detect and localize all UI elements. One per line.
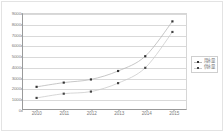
data-point	[90, 78, 92, 80]
data-point	[90, 91, 92, 93]
y-axis-label: 7000	[12, 33, 21, 37]
y-axis-label: 2000	[12, 87, 21, 91]
legend-marker-icon	[194, 59, 202, 64]
data-point	[144, 67, 146, 69]
y-axis-label: 0	[19, 109, 21, 113]
data-point	[117, 82, 119, 84]
data-point	[35, 97, 37, 99]
data-point	[171, 20, 173, 22]
x-axis-label: 2014	[142, 112, 152, 117]
y-axis-label: 8000	[12, 23, 21, 27]
legend-item-2[interactable]: 供水量	[194, 65, 215, 71]
x-axis-label: 2010	[32, 112, 42, 117]
y-axis-label: 5000	[12, 55, 21, 59]
data-point	[171, 31, 173, 33]
y-axis-label: 3000	[12, 76, 21, 80]
x-axis-label: 2013	[114, 112, 124, 117]
legend: 用水量供水量	[191, 56, 218, 73]
series-layer	[23, 14, 186, 109]
y-axis-label: 9000	[12, 12, 21, 16]
x-axis-label: 2015	[169, 112, 179, 117]
line-chart: 0100020003000400050006000700080009000 20…	[0, 0, 224, 132]
legend-marker-icon	[194, 65, 202, 70]
y-tick-mark	[21, 111, 23, 112]
y-axis-label: 6000	[12, 44, 21, 48]
legend-label: 供水量	[204, 65, 216, 69]
data-point	[63, 82, 65, 84]
data-point	[35, 86, 37, 88]
x-axis-label: 2011	[60, 112, 69, 117]
series-line-2	[37, 32, 173, 98]
data-point	[144, 55, 146, 57]
y-axis-label: 1000	[12, 98, 21, 102]
data-point	[117, 70, 119, 72]
x-axis-label: 2012	[87, 112, 97, 117]
series-line-1	[37, 21, 173, 86]
plot-area: 0100020003000400050006000700080009000 20…	[22, 13, 187, 110]
data-point	[63, 93, 65, 95]
y-axis-label: 4000	[12, 66, 21, 70]
